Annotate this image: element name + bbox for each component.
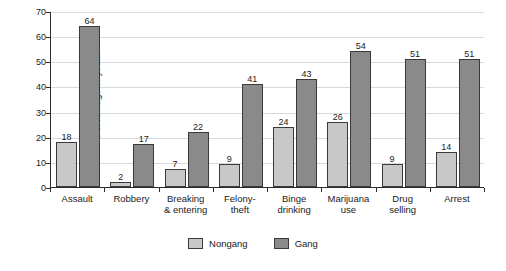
bar-gang-2: 22 — [188, 132, 209, 187]
bar-gang-3: 41 — [242, 84, 263, 187]
bar-nongang-7: 14 — [436, 152, 457, 187]
bar-gang-1: 17 — [133, 144, 154, 187]
bar-gang-4: 43 — [296, 79, 317, 187]
y-axis-tick-label: 20 — [26, 133, 46, 143]
bar-nongang-5: 26 — [327, 122, 348, 187]
x-axis-tick-mark — [321, 188, 322, 192]
y-axis-tick-label: 10 — [26, 158, 46, 168]
bar-gang-7: 51 — [459, 59, 480, 187]
legend-swatch-nongang — [188, 238, 203, 249]
y-axis-tick-label: 40 — [26, 82, 46, 92]
x-axis-tick-mark — [213, 188, 214, 192]
bar-value-label: 54 — [356, 41, 366, 51]
bar-value-label: 9 — [227, 154, 232, 164]
bar-nongang-2: 7 — [165, 169, 186, 187]
bar-group: 1451 — [431, 12, 485, 187]
bar-value-label: 17 — [139, 134, 149, 144]
bar-nongang-0: 18 — [56, 142, 77, 187]
bar-value-label: 2 — [118, 172, 123, 182]
bar-value-label: 22 — [193, 122, 203, 132]
bar-value-label: 18 — [62, 132, 72, 142]
y-axis-tick-label: 50 — [26, 57, 46, 67]
bar-value-label: 26 — [333, 112, 343, 122]
bar-nongang-4: 24 — [273, 127, 294, 187]
y-axis-tick-label: 0 — [26, 183, 46, 193]
bar-gang-5: 54 — [350, 51, 371, 187]
plot-inner: 1864217722941244326549511451 — [51, 12, 484, 187]
x-axis-tick-mark — [159, 188, 160, 192]
legend-swatch-gang — [274, 238, 289, 249]
bar-value-label: 14 — [441, 142, 451, 152]
plot-area: 1864217722941244326549511451 — [50, 12, 484, 188]
x-axis-tick-mark — [267, 188, 268, 192]
legend-item-gang: Gang — [274, 238, 318, 249]
y-axis-tick-label: 60 — [26, 32, 46, 42]
bar-group: 941 — [214, 12, 268, 187]
y-axis-tick-label: 70 — [26, 7, 46, 17]
legend-label-nongang: Nongang — [209, 238, 248, 249]
bar-group: 2654 — [322, 12, 376, 187]
x-axis-tick-mark — [430, 188, 431, 192]
bar-gang-0: 64 — [79, 26, 100, 187]
bar-chart: Percentage of youth 010203040506070 1864… — [0, 0, 506, 271]
bar-value-label: 9 — [390, 154, 395, 164]
bar-value-label: 24 — [279, 117, 289, 127]
bar-value-label: 43 — [302, 69, 312, 79]
x-axis-tick-label: Arrest — [423, 193, 491, 204]
bar-value-label: 51 — [410, 49, 420, 59]
bar-value-label: 64 — [85, 16, 95, 26]
legend: Nongang Gang — [0, 238, 506, 249]
x-axis-tick-labels: AssaultRobberyBreaking & enteringFelony-… — [50, 193, 484, 227]
bar-gang-6: 51 — [405, 59, 426, 187]
x-axis-tick-mark — [376, 188, 377, 192]
bar-group: 722 — [160, 12, 214, 187]
y-axis-tick-label: 30 — [26, 108, 46, 118]
bar-value-label: 7 — [173, 159, 178, 169]
bar-nongang-3: 9 — [219, 164, 240, 187]
bar-group: 1864 — [51, 12, 105, 187]
bar-nongang-1: 2 — [110, 182, 131, 187]
legend-item-nongang: Nongang — [188, 238, 248, 249]
x-axis-tick-mark — [104, 188, 105, 192]
y-axis-tick-labels: 010203040506070 — [18, 12, 46, 188]
legend-label-gang: Gang — [295, 238, 318, 249]
bar-value-label: 51 — [464, 49, 474, 59]
bar-group: 217 — [105, 12, 159, 187]
bar-value-label: 41 — [247, 74, 257, 84]
x-axis-tick-mark — [484, 188, 485, 192]
bar-group: 2443 — [268, 12, 322, 187]
bar-nongang-6: 9 — [382, 164, 403, 187]
bar-group: 951 — [377, 12, 431, 187]
x-axis-tick-mark — [50, 188, 51, 192]
